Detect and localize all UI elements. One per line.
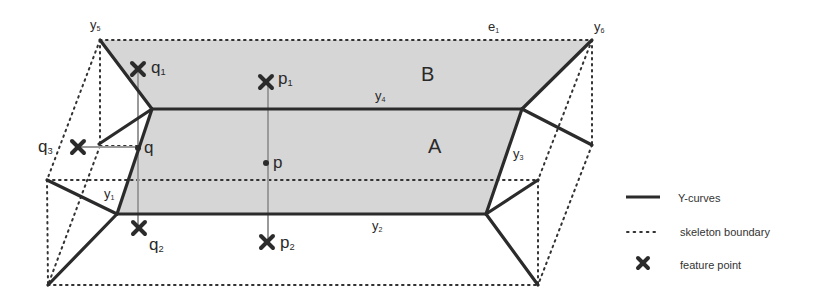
region-label-b: B bbox=[421, 64, 434, 84]
label-q3: q3 bbox=[38, 138, 53, 157]
label-q2: q2 bbox=[149, 236, 164, 255]
region-label-a: A bbox=[428, 136, 441, 156]
label-y5: y5 bbox=[90, 18, 100, 33]
point-p-dot bbox=[263, 160, 269, 166]
label-y4: y4 bbox=[375, 89, 385, 104]
label-p: p bbox=[273, 154, 282, 171]
point-q-dot bbox=[135, 145, 141, 151]
label-y3: y3 bbox=[513, 147, 523, 162]
legend-item-y-curves: Y-curves bbox=[670, 188, 720, 208]
region-a-shade bbox=[117, 109, 522, 214]
legend-symbols bbox=[626, 197, 660, 268]
label-q1: q1 bbox=[151, 59, 166, 78]
label-p1: p1 bbox=[278, 70, 293, 89]
legend-label: skeleton boundary bbox=[680, 226, 770, 238]
legend-item-feature-point: feature point bbox=[672, 255, 741, 275]
region-b-shade bbox=[100, 40, 592, 109]
label-y2: y2 bbox=[372, 219, 382, 234]
legend-label: Y-curves bbox=[678, 192, 720, 204]
label-q: q bbox=[144, 139, 153, 156]
legend-item-skeleton-boundary: skeleton boundary bbox=[672, 222, 770, 242]
label-y1: y1 bbox=[104, 187, 114, 202]
legend-label: feature point bbox=[680, 259, 741, 271]
label-p2: p2 bbox=[280, 234, 295, 253]
label-e1: e1 bbox=[488, 20, 499, 35]
legend-cross-icon bbox=[638, 258, 648, 268]
label-y6: y6 bbox=[594, 20, 604, 35]
